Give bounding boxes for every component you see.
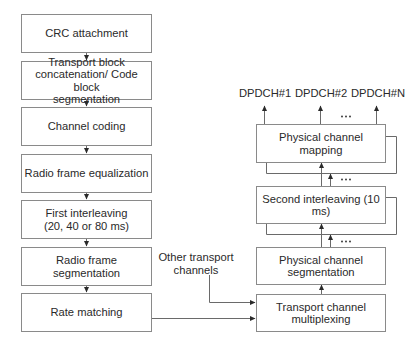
- block-channel-coding: Channel coding: [21, 107, 152, 146]
- other-transport-channels-label: Other transport channels: [158, 251, 234, 276]
- block-label: Radio frame equalization: [25, 167, 149, 180]
- block-second-interleaving: Second interleaving (10 ms): [256, 186, 386, 224]
- block-radio-frame-equalization: Radio frame equalization: [21, 154, 152, 193]
- output-label-dpdch-2: DPDCH#2: [295, 87, 347, 100]
- block-label: Transport block concatenation/ Code bloc…: [24, 56, 149, 106]
- block-transport-block-concatenation: Transport block concatenation/ Code bloc…: [21, 61, 152, 100]
- block-label: Second interleaving (10 ms): [259, 193, 383, 218]
- block-label: Rate matching: [50, 306, 122, 319]
- block-physical-channel-segmentation: Physical channel segmentation: [256, 247, 386, 285]
- block-physical-channel-mapping: Physical channel mapping: [256, 124, 386, 163]
- output-label-dpdch-1: DPDCH#1: [239, 87, 291, 100]
- block-label: Physical channel mapping: [259, 131, 383, 156]
- block-first-interleaving: First interleaving (20, 40 or 80 ms): [21, 200, 152, 239]
- block-label: Channel coding: [48, 120, 126, 133]
- block-label: Radio frame segmentation: [24, 254, 149, 279]
- block-radio-frame-segmentation: Radio frame segmentation: [21, 247, 152, 286]
- block-label: First interleaving (20, 40 or 80 ms): [44, 207, 129, 232]
- block-transport-channel-multiplexing: Transport channel multiplexing: [256, 294, 386, 332]
- block-rate-matching: Rate matching: [21, 293, 152, 332]
- block-label: Transport channel multiplexing: [276, 301, 366, 326]
- block-crc-attachment: CRC attachment: [21, 14, 152, 53]
- block-label: CRC attachment: [45, 27, 128, 40]
- block-label: Physical channel segmentation: [279, 254, 363, 279]
- transport-channel-flowchart: CRC attachment Transport block concatena…: [0, 0, 419, 349]
- output-label-dpdch-n: DPDCH#N: [351, 87, 403, 100]
